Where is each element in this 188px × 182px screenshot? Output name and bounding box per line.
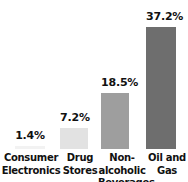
- bar-chart: 1.4% 7.2% 18.5% 37.2% Consumer Electroni…: [0, 0, 188, 182]
- bar-group-1: 7.2%: [60, 0, 88, 149]
- bar-value-label-1: 7.2%: [60, 112, 88, 124]
- bar-value-label-2: 18.5%: [101, 77, 129, 89]
- category-label-1: Drug Stores: [62, 152, 98, 177]
- plot-area: 1.4% 7.2% 18.5% 37.2%: [0, 0, 188, 149]
- bar-group-0: 1.4%: [15, 0, 45, 149]
- category-label-0: Consumer Electronics: [0, 152, 62, 177]
- category-label-3-line1: Oil and: [148, 152, 186, 163]
- bar-value-label-3: 37.2%: [146, 11, 176, 23]
- category-label-3-line2: Gas: [146, 165, 188, 178]
- bar-group-3: 37.2%: [146, 0, 176, 149]
- category-label-0-line1: Consumer: [4, 152, 58, 163]
- bar-1[interactable]: [60, 128, 88, 149]
- category-axis: Consumer Electronics Drug Stores Non-alc…: [0, 149, 188, 182]
- category-label-3: Oil and Gas: [146, 152, 188, 177]
- bar-value-label-0: 1.4%: [15, 130, 45, 142]
- category-label-2-line2: Beverages: [98, 177, 146, 182]
- bar-group-2: 18.5%: [101, 0, 129, 149]
- bar-2[interactable]: [101, 93, 129, 149]
- category-label-1-line2: Stores: [62, 165, 98, 178]
- bar-3[interactable]: [146, 27, 176, 149]
- category-label-1-line1: Drug: [67, 152, 93, 163]
- category-label-2-line1: Non-alcoholic: [98, 152, 145, 176]
- category-label-2: Non-alcoholic Beverages: [98, 152, 146, 182]
- category-label-0-line2: Electronics: [0, 165, 62, 178]
